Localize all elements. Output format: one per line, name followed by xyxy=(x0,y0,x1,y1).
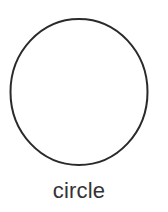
circle-shape xyxy=(11,19,148,165)
shape-figure: circle xyxy=(0,0,168,212)
shape-caption: circle xyxy=(0,180,158,202)
